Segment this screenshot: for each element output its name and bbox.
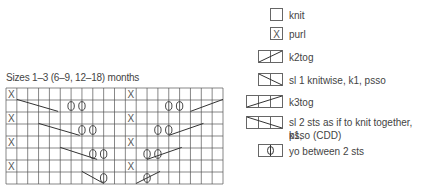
legend-label-cdd-line2: psso (CDD) bbox=[289, 129, 341, 142]
decrease-line bbox=[169, 123, 204, 135]
legend-label-k3tog: k3tog bbox=[289, 96, 313, 109]
purl-mark: X bbox=[8, 137, 15, 148]
purl-mark: X bbox=[8, 161, 15, 172]
legend-label-purl: purl bbox=[289, 28, 306, 41]
legend-label-skp: sl 1 knitwise, k1, psso bbox=[289, 74, 386, 87]
yo-symbol-icon bbox=[258, 144, 284, 158]
legend-label-knit: knit bbox=[289, 9, 305, 22]
purl-mark: X bbox=[127, 113, 134, 124]
purl-mark: X bbox=[127, 161, 134, 172]
purl-mark: X bbox=[127, 137, 134, 148]
purl-symbol-icon: X bbox=[270, 27, 284, 41]
legend-label-k2tog: k2tog bbox=[289, 51, 313, 64]
decrease-line bbox=[17, 99, 58, 111]
purl-mark: X bbox=[8, 113, 15, 124]
decrease-line bbox=[147, 147, 182, 159]
knit-symbol-icon bbox=[270, 8, 284, 22]
skp-symbol-icon bbox=[258, 73, 284, 87]
decrease-line bbox=[190, 99, 223, 111]
k3tog-symbol-icon bbox=[246, 95, 284, 109]
decrease-line bbox=[39, 123, 80, 135]
svg-text:X: X bbox=[273, 29, 280, 40]
knitting-chart: XXXXXXXX bbox=[0, 0, 422, 193]
purl-mark: X bbox=[127, 89, 134, 100]
k2tog-symbol-icon bbox=[258, 50, 284, 64]
cdd-symbol-icon bbox=[246, 116, 284, 130]
purl-mark: X bbox=[8, 89, 15, 100]
legend-label-yo: yo between 2 sts bbox=[289, 145, 364, 158]
